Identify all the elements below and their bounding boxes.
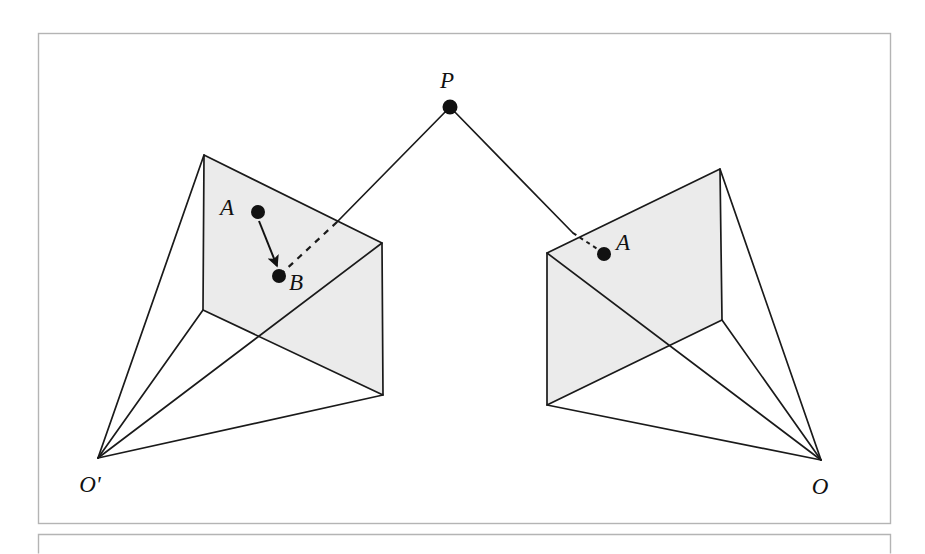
right-camera-center-label: O [812,474,829,499]
left-cone-edge-bottom-left [98,310,203,458]
outer-frame [39,34,891,524]
right-cone-edge-bottom-left [547,405,821,460]
right-cone-edge-bottom-right [722,320,821,460]
ray-P-to-left-image-plane [337,107,450,222]
left-point-b-dot [272,269,286,283]
right-image-plane [547,169,722,405]
left-point-b-label: B [289,270,303,295]
ray-P-to-right-image-plane [450,107,573,233]
scene-point-label: P [439,68,454,93]
right-point-a-dot [597,247,611,261]
geometry-diagram: A B O' A O P [0,0,925,554]
left-point-a-dot [251,205,265,219]
right-cone-edge-top-right [720,169,821,460]
left-camera-center-label: O' [79,472,102,497]
left-point-a-label: A [218,195,235,220]
left-cone-edge-top-left [98,155,204,458]
figure-container: A B O' A O P [0,0,925,554]
scene-point-dot [443,100,458,115]
scene-point-group: P [439,68,458,115]
right-point-a-label: A [614,230,631,255]
partial-bottom-frame [39,535,891,554]
left-camera-group: A B O' [79,107,450,497]
right-camera-group: A O [450,107,829,499]
